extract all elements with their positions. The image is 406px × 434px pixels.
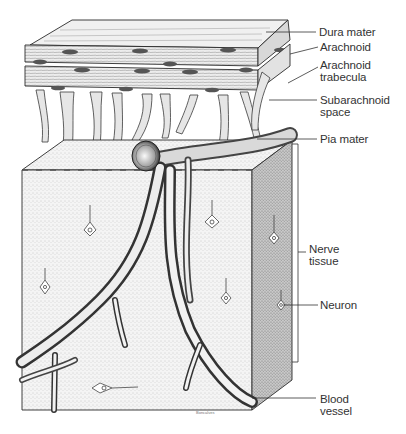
dura-mater-layer bbox=[25, 20, 290, 66]
label-blood-vessel: Blood vessel bbox=[320, 393, 352, 417]
label-nerve-tissue: Nerve tissue bbox=[309, 243, 339, 267]
meninges-diagram: Dura mater Arachnoid Arachnoid trabecula… bbox=[0, 0, 406, 434]
label-arachnoid: Arachnoid bbox=[320, 41, 371, 53]
nerve-tissue-bracket bbox=[292, 144, 298, 362]
label-subarachnoid-space: Subarachnoid space bbox=[320, 94, 390, 118]
artist-signature: Boncalves bbox=[196, 410, 214, 415]
label-dura-mater: Dura mater bbox=[319, 26, 376, 38]
label-arachnoid-trabecula: Arachnoid trabecula bbox=[320, 59, 371, 83]
label-pia-mater: Pia mater bbox=[320, 133, 368, 145]
label-neuron: Neuron bbox=[320, 299, 357, 311]
leader-arachnoid bbox=[290, 47, 318, 54]
leader-arachnoid-trabecula bbox=[288, 67, 318, 83]
